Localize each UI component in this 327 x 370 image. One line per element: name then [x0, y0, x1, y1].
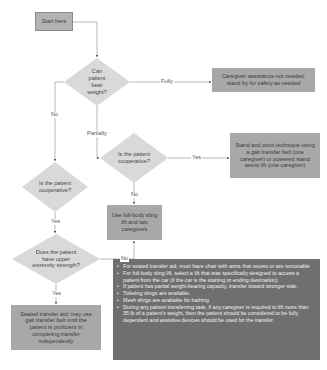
decision-label: Is the patient cooperative?: [22, 162, 88, 212]
outcome-seated-transfer: Seated transfer aid; may use gait transf…: [11, 305, 101, 350]
decision-label: Is the patient cooperative?: [100, 133, 168, 183]
edge-label-partially: Partially: [86, 131, 108, 137]
decision-cooperative-partial: Is the patient cooperative?: [100, 133, 168, 183]
outcome-full-sling: Use full-body sling lift and two caregiv…: [107, 205, 162, 240]
decision-upper-strength: Does the patient have upper extremity st…: [12, 234, 100, 284]
note-item: Mesh slings are available for bathing: [117, 297, 314, 304]
outcome-label: Use full-body sling lift and two caregiv…: [110, 212, 159, 232]
outcome-stand-pivot: Stand and pivot technique using a gait t…: [230, 133, 320, 178]
edge-label-fully: Fully: [160, 79, 174, 85]
decision-label: Does the patient have upper extremity st…: [12, 234, 100, 284]
notes-list: For seated transfer aid, must have chair…: [117, 263, 314, 324]
note-item: For full-body sling lift, select a lift …: [117, 270, 314, 284]
outcome-label: Caregiver assistance not needed; stand b…: [216, 73, 311, 86]
edge-label-no-weight: No: [50, 112, 59, 118]
note-item: If patient has partial weight-bearing ca…: [117, 283, 314, 290]
edge-label-yes-upper: Yes: [51, 291, 62, 297]
notes-box: For seated transfer aid, must have chair…: [113, 259, 320, 360]
decision-bear-weight: Can patient bear weight?: [64, 58, 130, 106]
outcome-label: Seated transfer aid; may use gait transf…: [17, 311, 95, 345]
decision-label: Can patient bear weight?: [64, 58, 130, 106]
edge-label-no-coop-partial: No: [130, 192, 139, 198]
edge-label-yes-coop-left: Yes: [50, 219, 61, 225]
edge-label-yes-coop-partial: Yes: [191, 155, 202, 161]
edge-label-no-upper: No: [120, 256, 129, 262]
outcome-label: Stand and pivot technique using a gait t…: [234, 142, 316, 169]
note-item: For seated transfer aid, must have chair…: [117, 263, 314, 270]
note-item: During any patient transferring task, if…: [117, 304, 314, 324]
start-node: Start here: [35, 12, 73, 31]
note-item: Toileting slings are available.: [117, 290, 314, 297]
outcome-no-assist: Caregiver assistance not needed; stand b…: [212, 68, 315, 92]
start-label: Start here: [42, 18, 67, 25]
decision-cooperative-no: Is the patient cooperative?: [22, 162, 88, 212]
